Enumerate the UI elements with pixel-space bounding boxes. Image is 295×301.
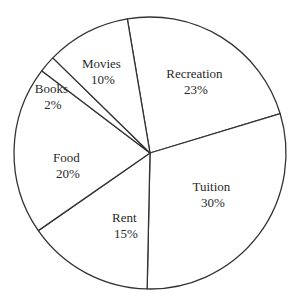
slice-label-food: Food 20%	[53, 150, 83, 181]
pie-chart: Recreation 23% Tuition 30% Rent 15% Food…	[0, 0, 295, 301]
slice-label-rent: Rent 15%	[112, 210, 140, 241]
